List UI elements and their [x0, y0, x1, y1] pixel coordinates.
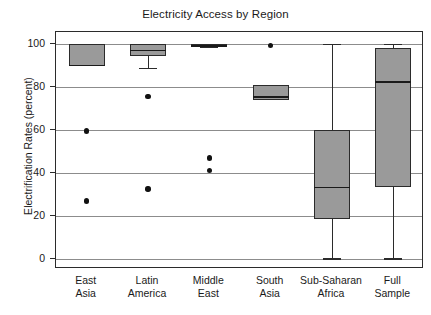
outlier-point: [207, 155, 212, 160]
whisker-cap-lower: [200, 47, 218, 48]
box-plot-chart: Electricity Access by Region Electrifica…: [0, 0, 431, 315]
whisker-cap-lower: [323, 258, 341, 259]
gridline-60: [56, 130, 422, 131]
median-line: [375, 81, 411, 83]
y-tick-label-20: 20: [11, 210, 45, 221]
y-tick-label-40: 40: [11, 167, 45, 178]
outlier-point: [207, 168, 212, 173]
box-south-asia: [253, 85, 289, 100]
box-full-sample: [375, 48, 411, 187]
median-line: [314, 187, 350, 189]
x-tick-label-line: Sample: [347, 287, 431, 300]
box-sub-saharan-africa: [314, 130, 350, 220]
median-line: [253, 96, 289, 98]
y-tick-mark-40: [50, 172, 55, 173]
whisker-lower: [332, 219, 333, 258]
outlier-point: [268, 43, 273, 48]
whisker-lower: [148, 56, 149, 68]
gridline-0: [56, 259, 422, 260]
x-tick-label-full-sample: FullSample: [347, 274, 431, 299]
y-tick-label-0: 0: [11, 253, 45, 264]
gridline-40: [56, 173, 422, 174]
gridline-100: [56, 44, 422, 45]
gridline-80: [56, 87, 422, 88]
y-tick-label-80: 80: [11, 81, 45, 92]
whisker-cap-upper: [323, 44, 341, 45]
y-tick-mark-100: [50, 43, 55, 44]
median-line: [130, 50, 166, 52]
y-tick-mark-20: [50, 215, 55, 216]
whisker-lower: [393, 187, 394, 258]
outlier-point: [145, 94, 150, 99]
y-tick-mark-80: [50, 86, 55, 87]
median-line: [69, 65, 105, 67]
y-tick-label-100: 100: [11, 38, 45, 49]
outlier-point: [84, 198, 89, 203]
chart-title: Electricity Access by Region: [0, 8, 431, 20]
whisker-cap-upper: [384, 44, 402, 45]
whisker-cap-lower: [139, 68, 157, 69]
outlier-point: [145, 186, 150, 191]
y-tick-label-60: 60: [11, 124, 45, 135]
outlier-point: [84, 128, 89, 133]
y-tick-mark-60: [50, 129, 55, 130]
whisker-upper: [332, 44, 333, 130]
plot-area: [55, 31, 423, 268]
y-tick-mark-0: [50, 258, 55, 259]
whisker-cap-lower: [384, 258, 402, 259]
median-line: [191, 45, 227, 47]
gridline-20: [56, 216, 422, 217]
box-east-asia: [69, 44, 105, 66]
x-tick-label-line: Full: [347, 274, 431, 287]
